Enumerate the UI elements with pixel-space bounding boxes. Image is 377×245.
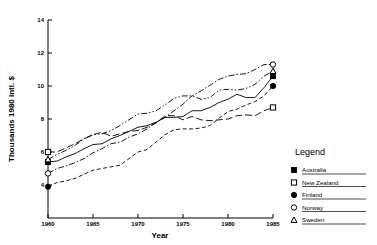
chart-figure: 468101214 196019651970197519801985 Thous… <box>0 0 377 245</box>
legend-marker-new-zealand <box>291 180 296 185</box>
series-line-finland <box>48 86 273 187</box>
end-marker-australia <box>270 74 275 79</box>
x-tick-label: 1980 <box>221 221 235 227</box>
legend-marker-norway <box>291 205 296 210</box>
x-tick-label: 1970 <box>131 221 145 227</box>
y-tick-label: 6 <box>41 149 45 155</box>
legend-marker-finland <box>291 192 296 197</box>
legend-label-sweden: Sweden <box>302 216 325 223</box>
legend-title: Legend <box>295 147 325 157</box>
y-tick-label: 10 <box>37 83 44 89</box>
legend-items: AustraliaNew ZealandFinlandNorwaySweden <box>291 166 366 224</box>
x-axis-ticks: 196019651970197519801985 <box>41 214 280 227</box>
legend-label-finland: Finland <box>302 191 323 198</box>
start-marker-new-zealand <box>45 149 50 154</box>
endpoint-markers-group <box>45 62 276 189</box>
legend-label-new-zealand: New Zealand <box>302 179 339 186</box>
start-marker-finland <box>45 184 50 189</box>
end-marker-norway <box>270 62 275 67</box>
end-marker-sweden <box>270 68 276 73</box>
legend-marker-australia <box>291 167 296 172</box>
legend-label-australia: Australia <box>302 166 327 173</box>
legend: Legend AustraliaNew ZealandFinlandNorway… <box>291 147 366 224</box>
start-marker-norway <box>45 171 50 176</box>
data-series-group <box>48 65 273 187</box>
y-tick-label: 14 <box>37 17 44 23</box>
x-tick-label: 1965 <box>86 221 100 227</box>
y-tick-label: 8 <box>41 116 45 122</box>
end-marker-finland <box>270 83 275 88</box>
legend-marker-sweden <box>291 217 297 222</box>
y-tick-label: 4 <box>41 182 45 188</box>
x-axis-title: Year <box>152 231 169 240</box>
legend-label-norway: Norway <box>302 204 324 211</box>
series-line-new-zealand <box>48 107 273 152</box>
x-tick-label: 1975 <box>176 221 190 227</box>
end-marker-new-zealand <box>270 105 275 110</box>
y-axis-title: Thousands 1980 Intl. $ <box>7 76 16 162</box>
y-tick-label: 12 <box>37 50 44 56</box>
x-tick-label: 1960 <box>41 221 55 227</box>
x-tick-label: 1985 <box>266 221 280 227</box>
line-chart: 468101214 196019651970197519801985 Thous… <box>0 0 377 245</box>
